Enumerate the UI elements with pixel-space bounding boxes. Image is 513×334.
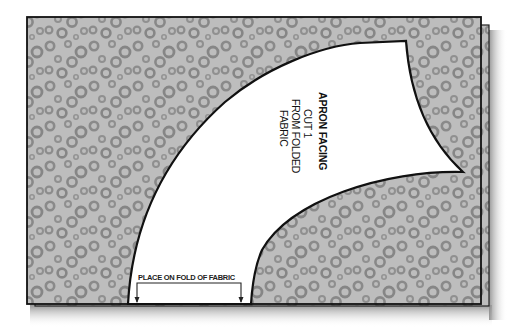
instruction-line-2: FROM FOLDED bbox=[290, 99, 302, 173]
pattern-layout-diagram: APRON FACING CUT 1 FROM FOLDED FABRIC PL… bbox=[0, 0, 513, 334]
diagram-canvas bbox=[0, 0, 513, 334]
pattern-piece-name: APRON FACING bbox=[317, 92, 329, 170]
shadow-right bbox=[489, 30, 507, 320]
instruction-line-1: CUT 1 bbox=[302, 109, 314, 138]
shadow-bottom bbox=[30, 305, 492, 327]
instruction-line-3: FABRIC bbox=[278, 110, 290, 147]
fold-instruction-label: PLACE ON FOLD OF FABRIC bbox=[138, 273, 235, 282]
